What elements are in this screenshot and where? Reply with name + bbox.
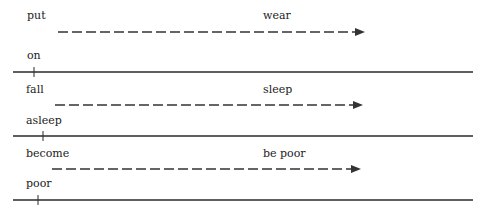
row-3-verb-label: become: [26, 148, 69, 160]
row-3-group: [13, 169, 473, 205]
row-1-verb-label: put: [27, 10, 46, 22]
row-3-particle-label: poor: [26, 178, 52, 190]
row-3-meaning-label: be poor: [263, 148, 306, 160]
row-2-group: [13, 105, 473, 141]
row-2-verb-label: fall: [26, 84, 44, 96]
row-1-group: [13, 32, 473, 77]
row-1-meaning-label: wear: [263, 10, 291, 22]
diagram-canvas: [0, 0, 485, 214]
row-2-meaning-label: sleep: [263, 84, 292, 96]
row-1-particle-label: on: [27, 50, 41, 62]
row-2-particle-label: asleep: [26, 115, 62, 127]
